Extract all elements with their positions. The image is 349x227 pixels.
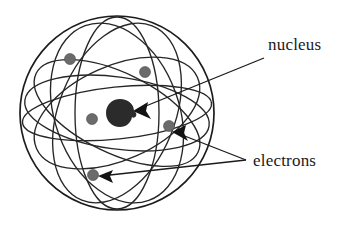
electron-dot-5 (88, 170, 99, 181)
electron-dot-3 (87, 114, 98, 125)
electron-dot-4 (164, 121, 175, 132)
electron-dot-1 (65, 54, 76, 65)
electrons-label: electrons (253, 151, 316, 170)
atomic-model-diagram: nucleus electrons (0, 0, 349, 227)
electron-dot-2 (140, 67, 151, 78)
nucleus-label: nucleus (268, 35, 321, 54)
